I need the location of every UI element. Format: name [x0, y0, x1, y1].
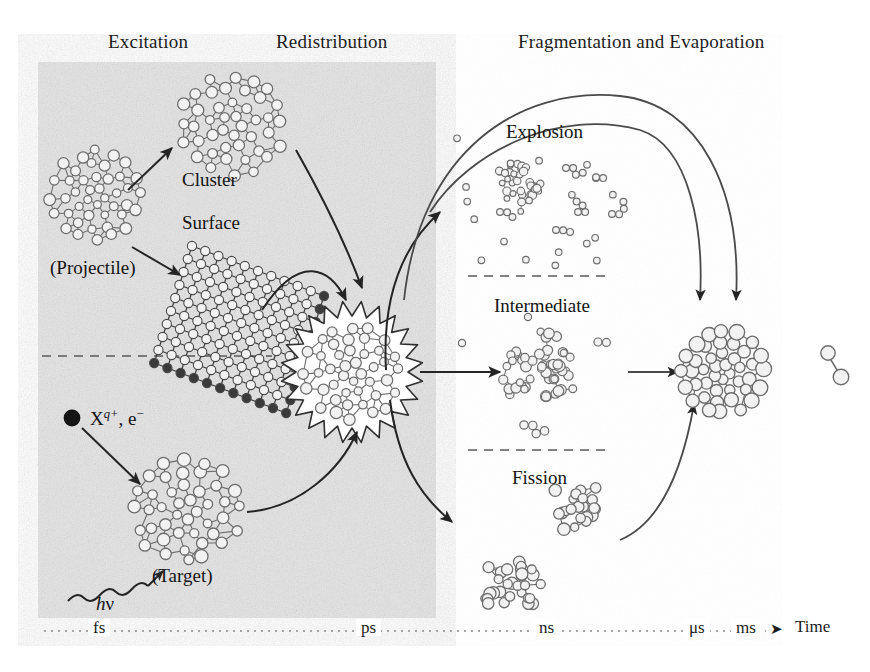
time-tick-fs: fs: [88, 619, 110, 636]
phase-label-redistribution: Redistribution: [276, 32, 388, 51]
phase-label-excitation: Excitation: [108, 32, 188, 51]
projectile-label: (Projectile): [50, 258, 135, 277]
diatomic-molecule: [821, 346, 849, 385]
ion-species-x: X: [90, 408, 104, 429]
branch-label-fission: Fission: [512, 468, 567, 487]
time-tick-ns: ns: [534, 619, 559, 636]
time-tick-ms: ms: [731, 619, 761, 636]
incident-ion-label: Xq+, e−: [90, 408, 143, 428]
branch-label-explosion: Explosion: [506, 122, 583, 141]
time-arrow-glyph: ➤: [770, 622, 783, 637]
branch-label-intermediate: Intermediate: [494, 296, 590, 315]
photon-label: hν: [96, 594, 114, 613]
time-tick-ps: ps: [356, 619, 381, 636]
phase-label-fragmentation: Fragmentation and Evaporation: [518, 32, 764, 51]
ion-electron: , e: [118, 408, 136, 429]
diagram-svg: [0, 0, 870, 672]
cluster-label: Cluster: [182, 170, 237, 189]
electron-charge: −: [136, 407, 143, 421]
photon-h: h: [96, 593, 106, 614]
time-tick-s: μs: [684, 619, 710, 636]
figure-canvas: Excitation Redistribution Fragmentation …: [0, 0, 870, 672]
photon-nu: ν: [106, 593, 115, 614]
time-axis-label: Time: [795, 618, 830, 635]
ion-charge: q+: [104, 407, 119, 421]
target-label: (Target): [152, 566, 213, 585]
surface-label: Surface: [182, 213, 240, 232]
